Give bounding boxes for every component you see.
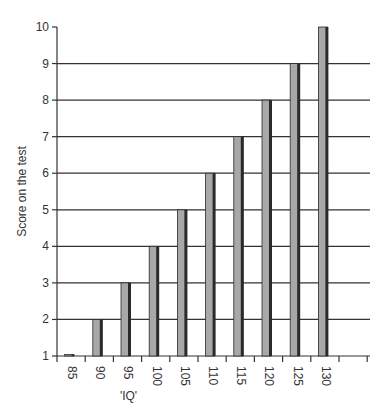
y-axis-title: Score on the test [15,145,29,236]
bar-shadow [128,283,131,356]
y-tick-label: 6 [42,166,49,180]
bar-shadow [156,246,159,356]
x-axis-title: 'IQ' [120,389,137,403]
x-tick-label: 130 [319,366,333,386]
y-tick-label: 7 [42,130,49,144]
x-tick-label: 100 [150,366,164,386]
bar-shadow [100,319,103,356]
bar-shadow [241,137,244,356]
y-tick-label: 9 [42,57,49,71]
y-tick-label: 1 [42,349,49,363]
x-tick-label: 105 [178,366,192,386]
x-tick-label: 95 [121,366,135,380]
y-tick-label: 8 [42,93,49,107]
bar-shadow [269,100,272,356]
bar-shadow [213,173,216,356]
y-tick-label: 2 [42,312,49,326]
y-tick-label: 3 [42,276,49,290]
bar-shadow [325,27,328,356]
y-tick-label: 5 [42,203,49,217]
x-tick-label: 90 [93,366,107,380]
x-tick-label: 120 [262,366,276,386]
bar-shadow [184,210,187,356]
bar-shadow [297,64,300,356]
y-tick-label: 10 [36,20,50,34]
bar-chart: 12345678910859095100105110115120125130'I… [0,0,391,410]
bar-shadow [72,355,75,357]
x-tick-label: 125 [291,366,305,386]
y-tick-label: 4 [42,239,49,253]
x-tick-label: 110 [206,366,220,385]
x-tick-label: 85 [65,366,79,380]
x-tick-label: 115 [234,366,248,385]
